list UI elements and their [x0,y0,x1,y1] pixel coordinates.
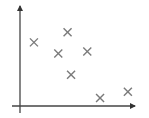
scatter-plot [0,0,149,118]
x-marker-icon [96,94,104,102]
x-marker-icon [30,38,38,46]
x-marker-icon [54,49,62,57]
x-marker-icon [64,28,72,36]
x-marker-icon [83,47,91,55]
x-marker-icon [124,88,132,96]
data-points [30,28,132,102]
x-marker-icon [67,71,75,79]
